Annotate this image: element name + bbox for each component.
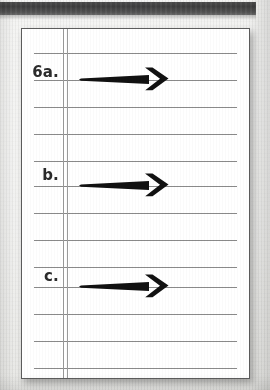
item-label-6a: 6a. (21, 63, 59, 81)
rule-line (34, 53, 237, 54)
rule-line (34, 287, 237, 288)
rightward-arrow-6a (79, 66, 183, 92)
rule-line (34, 267, 237, 268)
item-label-c: c. (21, 267, 59, 285)
rightward-arrow-c (79, 273, 183, 299)
margin-rule-left (63, 29, 64, 378)
rule-line (34, 161, 237, 162)
rule-line (34, 314, 237, 315)
rule-line (34, 107, 237, 108)
item-label-b: b. (21, 166, 59, 184)
rule-line (34, 213, 237, 214)
binding-strip (0, 2, 256, 15)
rule-line (34, 186, 237, 187)
rightward-arrow-b (79, 172, 183, 198)
binding-strip-shadow (0, 15, 256, 20)
rule-line (34, 341, 237, 342)
worksheet-scan: 6a. b. c. (0, 0, 270, 390)
rule-line (34, 134, 237, 135)
margin-rule-right (67, 29, 68, 378)
rule-line (34, 80, 237, 81)
rule-line (34, 240, 237, 241)
rule-line (34, 368, 237, 369)
ruled-paper-card: 6a. b. c. (21, 28, 250, 379)
